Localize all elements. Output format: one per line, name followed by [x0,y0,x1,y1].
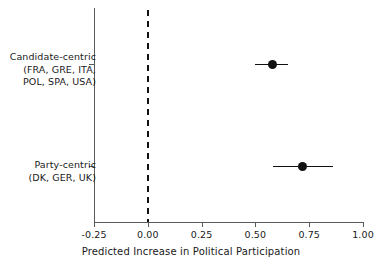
estimate-point-candidate-centric [268,60,277,69]
x-axis-title: Predicted Increase in Political Particip… [0,246,382,257]
x-axis-tick-label-5: 1.00 [341,229,382,240]
category-label-line1: Party-centric [29,159,97,172]
category-label-line2: (FRA, GRE, ITA, [10,64,96,77]
x-axis-tick-0 [94,222,95,227]
y-axis-line [94,8,95,222]
coefficient-plot-figure: Candidate-centric (FRA, GRE, ITA, POL, S… [0,0,382,271]
x-axis-tick-3 [255,222,256,227]
category-label-line3: POL, SPA, USA) [10,76,96,89]
x-axis-tick-label-3: 0.50 [233,229,277,240]
x-axis-tick-label-1: 0.00 [126,229,170,240]
x-axis-line [94,222,363,223]
category-label-party-centric: Party-centric (DK, GER, UK) [29,159,97,184]
x-axis-tick-2 [202,222,203,227]
x-axis-tick-4 [309,222,310,227]
x-axis-tick-5 [363,222,364,227]
x-axis-tick-label-4: 0.75 [287,229,331,240]
estimate-point-party-centric [298,162,307,171]
category-label-line2: (DK, GER, UK) [29,172,97,185]
category-label-line1: Candidate-centric [10,51,96,64]
category-label-candidate-centric: Candidate-centric (FRA, GRE, ITA, POL, S… [10,51,96,89]
x-axis-tick-1 [148,222,149,227]
x-axis-tick-label-0: -0.25 [72,229,116,240]
x-axis-tick-label-2: 0.25 [180,229,224,240]
zero-reference-line [147,10,149,222]
